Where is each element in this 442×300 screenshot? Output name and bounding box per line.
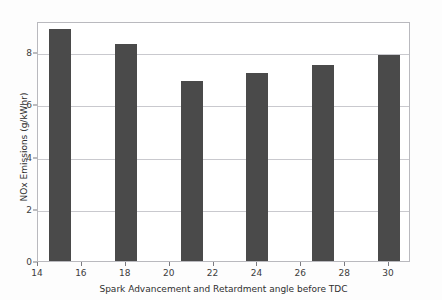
x-tick-mark-28: [344, 262, 345, 266]
x-tick-label-28: 28: [338, 268, 349, 278]
x-tick-mark-24: [256, 262, 257, 266]
x-tick-mark-26: [300, 262, 301, 266]
x-tick-mark-30: [388, 262, 389, 266]
x-tick-label-26: 26: [295, 268, 306, 278]
y-axis: NOx Emissions (g/kWhr) 02468: [0, 0, 37, 300]
x-tick-mark-20: [169, 262, 170, 266]
x-tick-mark-18: [125, 262, 126, 266]
bar-30: [378, 55, 400, 261]
y-tick-label-8: 8: [26, 48, 32, 58]
bar-18: [115, 44, 137, 261]
gridline-y-8: [38, 54, 409, 55]
bar-24: [246, 73, 268, 261]
x-tick-label-22: 22: [207, 268, 218, 278]
x-tick-mark-14: [37, 262, 38, 266]
x-tick-label-20: 20: [163, 268, 174, 278]
plot-area: [37, 22, 410, 262]
bar-21: [181, 81, 203, 261]
y-tick-label-2: 2: [26, 205, 32, 215]
x-axis-label: Spark Advancement and Retardment angle b…: [37, 284, 410, 294]
x-tick-mark-22: [213, 262, 214, 266]
x-tick-label-14: 14: [31, 268, 42, 278]
gridline-y-4: [38, 159, 409, 160]
x-tick-label-18: 18: [119, 268, 130, 278]
gridline-y-2: [38, 211, 409, 212]
x-tick-label-16: 16: [75, 268, 86, 278]
bar-27: [312, 65, 334, 261]
x-tick-mark-16: [81, 262, 82, 266]
x-tick-label-30: 30: [382, 268, 393, 278]
x-tick-label-24: 24: [251, 268, 262, 278]
top-ghost-text: · · · · ·: [236, 0, 261, 3]
bar-chart-figure: · · · · · NOx Emissions (g/kWhr) 02468 S…: [0, 0, 442, 300]
y-tick-label-4: 4: [26, 153, 32, 163]
bar-15: [49, 29, 71, 261]
top-cutoff-text-strip: · · · · ·: [0, 0, 442, 12]
x-axis: Spark Advancement and Retardment angle b…: [0, 262, 442, 300]
y-axis-label: NOx Emissions (g/kWhr): [19, 67, 29, 227]
y-tick-label-6: 6: [26, 100, 32, 110]
gridline-y-6: [38, 106, 409, 107]
